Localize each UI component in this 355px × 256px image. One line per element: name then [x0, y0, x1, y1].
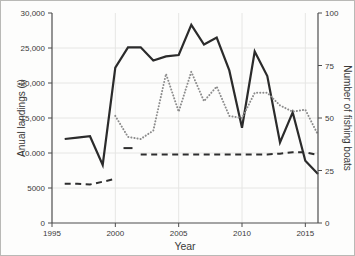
x-tick-label: 2005	[170, 229, 188, 238]
gridlines	[52, 13, 318, 223]
y-left-axis-title: Anual landings (t)	[16, 79, 27, 157]
y-right-tick-label: 0	[325, 219, 330, 228]
y-right-tick-label: 25	[325, 167, 334, 176]
tick-labels: 0500010.00015,00020,00025,00030,00002550…	[21, 9, 339, 238]
y-left-tick-label: 5000	[27, 184, 45, 193]
x-tick-label: 1995	[43, 229, 61, 238]
x-axis-title: Year	[174, 240, 196, 252]
x-tick-label: 2015	[296, 229, 314, 238]
y-left-tick-label: 0	[41, 219, 46, 228]
tick-marks	[48, 13, 322, 227]
y-right-axis-title: Number of fishing boats	[342, 65, 353, 171]
series-number-of-fishing-boats	[115, 72, 318, 139]
series-annual-landings	[65, 25, 318, 174]
landings-boats-chart: 0500010.00015,00020,00025,00030,00002550…	[0, 0, 355, 256]
chart-canvas: 0500010.00015,00020,00025,00030,00002550…	[1, 1, 355, 256]
x-tick-label: 2010	[233, 229, 251, 238]
y-left-tick-label: 30,000	[21, 9, 46, 18]
y-right-tick-label: 100	[325, 9, 339, 18]
x-tick-label: 2000	[106, 229, 124, 238]
y-right-tick-label: 50	[325, 114, 334, 123]
y-left-tick-label: 25,000	[21, 44, 46, 53]
y-right-tick-label: 75	[325, 62, 334, 71]
